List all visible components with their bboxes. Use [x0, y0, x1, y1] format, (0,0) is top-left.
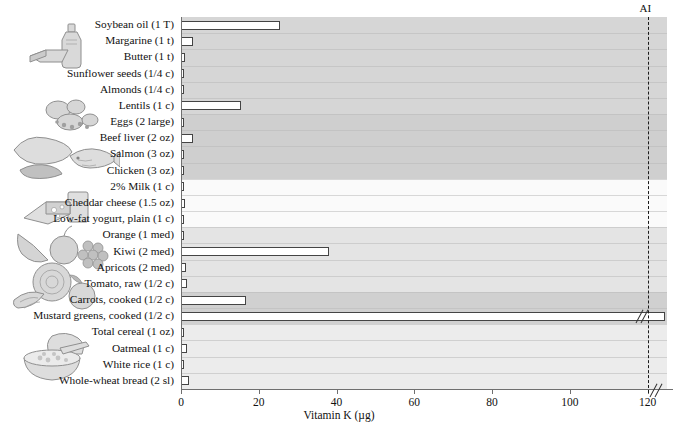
category-label: Apricots (2 med) [97, 262, 174, 273]
category-label: Chicken (3 oz) [107, 165, 174, 176]
row-separator [181, 211, 667, 212]
category-label: Eggs (2 large) [110, 116, 174, 127]
category-label: Butter (1 t) [124, 51, 174, 62]
category-label: Salmon (3 oz) [110, 148, 174, 159]
category-label: Kiwi (2 med) [113, 246, 174, 257]
row-separator [181, 195, 667, 196]
bar-margarine-1-t [181, 37, 193, 46]
category-label: Beef liver (2 oz) [100, 132, 174, 143]
row-separator [181, 146, 667, 147]
category-label: Almonds (1/4 c) [100, 84, 174, 95]
category-label: Carrots, cooked (1/2 c) [70, 294, 174, 305]
category-label-column: Soybean oil (1 T)Margarine (1 t)Butter (… [0, 17, 178, 389]
bar-mustard-greens-cooked-1-2-c [181, 312, 665, 321]
category-label: 2% Milk (1 c) [110, 181, 174, 192]
x-tick [570, 389, 571, 394]
category-label: Low-fat yogurt, plain (1 c) [53, 213, 174, 224]
axis-break-mark-bar [636, 310, 652, 322]
category-label: Sunflower seeds (1/4 c) [67, 68, 174, 79]
x-tick-label: 120 [628, 396, 668, 408]
row-separator [181, 98, 667, 99]
bar-kiwi-2-med [181, 247, 329, 256]
row-separator [181, 33, 667, 34]
y-axis-line [181, 17, 182, 389]
x-tick [492, 389, 493, 394]
row-separator [181, 324, 667, 325]
x-tick-label: 0 [161, 396, 201, 408]
plot-area [181, 17, 667, 389]
bar-carrots-cooked-1-2-c [181, 296, 246, 305]
row-separator [181, 163, 667, 164]
bar-beef-liver-2-oz [181, 134, 193, 143]
row-separator [181, 130, 667, 131]
category-label: Tomato, raw (1/2 c) [84, 278, 174, 289]
category-label: Total cereal (1 oz) [92, 326, 174, 337]
row-separator [181, 66, 667, 67]
category-label: Orange (1 med) [102, 229, 174, 240]
group-band-dairy [181, 179, 667, 228]
row-separator [181, 243, 667, 244]
x-tick [259, 389, 260, 394]
row-separator [181, 373, 667, 374]
category-label: Lentils (1 c) [119, 100, 174, 111]
x-tick [181, 389, 182, 394]
row-separator [181, 357, 667, 358]
row-separator [181, 340, 667, 341]
row-separator [181, 260, 667, 261]
row-separator [181, 114, 667, 115]
ai-reference-line [648, 17, 649, 393]
bar-whole-wheat-bread-2-sl [181, 376, 189, 385]
x-axis-line [181, 389, 673, 390]
category-label: Whole-wheat bread (2 sl) [59, 375, 174, 386]
x-tick-label: 60 [394, 396, 434, 408]
ai-label: AI [640, 2, 652, 14]
row-separator [181, 49, 667, 50]
x-tick-label: 100 [550, 396, 590, 408]
row-separator [181, 276, 667, 277]
x-tick-label: 40 [317, 396, 357, 408]
row-separator [181, 82, 667, 83]
row-separator [181, 292, 667, 293]
x-tick-label: 80 [472, 396, 512, 408]
bar-lentils-1-c [181, 101, 241, 110]
bar-soybean-oil-1-t [181, 21, 280, 30]
vitamin-k-food-sources-chart: Soybean oil (1 T)Margarine (1 t)Butter (… [0, 0, 678, 428]
row-separator [181, 179, 667, 180]
category-label: Margarine (1 t) [105, 35, 174, 46]
x-tick-label: 20 [239, 396, 279, 408]
x-tick [337, 389, 338, 394]
x-tick [414, 389, 415, 394]
category-label: White rice (1 c) [103, 359, 174, 370]
category-label: Oatmeal (1 c) [112, 343, 174, 354]
row-separator [181, 227, 667, 228]
x-axis-label: Vitamin K (µg) [0, 409, 678, 421]
row-separator [181, 308, 667, 309]
group-bands [181, 17, 667, 389]
category-label: Soybean oil (1 T) [95, 19, 174, 30]
axis-break-mark-x-axis [650, 383, 666, 395]
category-label: Cheddar cheese (1.5 oz) [65, 197, 174, 208]
category-label: Mustard greens, cooked (1/2 c) [33, 310, 174, 321]
